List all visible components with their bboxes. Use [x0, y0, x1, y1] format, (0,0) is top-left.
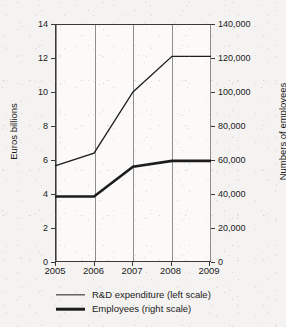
- legend-swatch-thin-line-icon: [56, 290, 85, 300]
- chart-figure: 14 12 10 8 6 4 2 0 140,000 120,000 100,0…: [0, 0, 286, 327]
- legend-item-employees: Employees (right scale): [56, 302, 211, 316]
- series-line-rd-expenditure: [55, 56, 211, 166]
- legend-item-rd-expenditure: R&D expenditure (left scale): [56, 288, 211, 302]
- data-series-layer: [0, 0, 286, 327]
- legend-swatch-thick-line-icon: [56, 304, 85, 314]
- legend-label-rd-expenditure: R&D expenditure (left scale): [92, 290, 211, 300]
- series-line-employees: [55, 161, 211, 197]
- legend-label-employees: Employees (right scale): [92, 304, 191, 314]
- chart-legend: R&D expenditure (left scale) Employees (…: [56, 288, 211, 316]
